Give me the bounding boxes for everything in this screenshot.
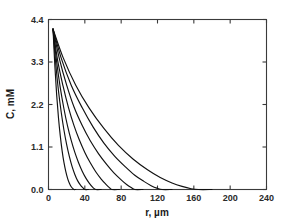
x-tick-label: 80: [116, 193, 126, 203]
x-tick-label: 240: [259, 193, 274, 203]
y-axis-title: C, mM: [5, 89, 16, 119]
x-tick-label: 40: [80, 193, 90, 203]
chart-figure: 04080120160200240 0.01.12.23.34.4 r, µm …: [0, 0, 284, 224]
y-tick-label: 4.4: [31, 15, 44, 25]
x-tick-label: 200: [223, 193, 238, 203]
y-tick-label: 2.2: [31, 100, 44, 110]
x-tick-label: 0: [46, 193, 51, 203]
x-axis-title: r, µm: [145, 207, 169, 218]
y-tick-label: 3.3: [31, 57, 44, 67]
y-tick-label: 1.1: [31, 142, 44, 152]
y-tick-label: 0.0: [31, 185, 44, 195]
concentration-profile-chart: 04080120160200240 0.01.12.23.34.4 r, µm …: [0, 0, 284, 224]
x-tick-label: 160: [186, 193, 201, 203]
x-tick-label: 120: [150, 193, 165, 203]
